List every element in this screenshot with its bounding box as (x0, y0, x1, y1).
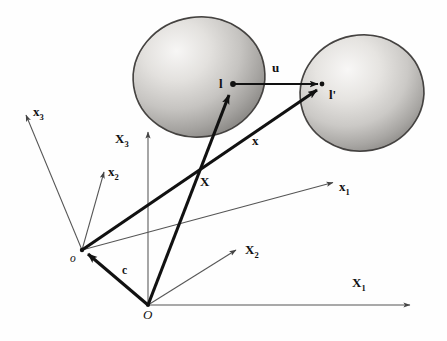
diagram-canvas (0, 0, 447, 341)
axis-X2-line (148, 250, 236, 305)
vector-label-X: X (200, 175, 209, 188)
axis-label-X3: X3 (115, 132, 129, 148)
vector-label-u: u (272, 61, 279, 74)
origin-label-o: o (70, 253, 76, 265)
axis-label-X1: X1 (352, 276, 366, 292)
axis-x1-sub: 1 (346, 187, 350, 197)
point-label-l-prime: l' (329, 88, 336, 101)
material-axes-group (148, 132, 410, 305)
origin-label-O: O (143, 308, 152, 321)
axis-X1-base: X (352, 275, 361, 290)
axis-label-X2: X2 (245, 243, 259, 259)
axis-X2-base: X (245, 242, 254, 257)
axis-label-x2: x2 (108, 165, 119, 181)
axis-x3-line (26, 115, 82, 250)
reference-body (125, 8, 272, 145)
vector-label-c: c (122, 265, 127, 277)
axis-x3-sub: 3 (40, 112, 44, 122)
axis-x1-line (82, 183, 333, 251)
axis-X1-sub: 1 (361, 283, 365, 293)
point-l-prime-marker (320, 82, 325, 87)
axis-label-x1: x1 (339, 180, 350, 196)
axis-X3-sub: 3 (124, 139, 128, 149)
axis-X3-base: X (115, 131, 124, 146)
point-label-l: l (219, 77, 223, 90)
axis-X2-sub: 2 (254, 250, 258, 260)
vector-label-x: x (252, 134, 259, 147)
origin-o-marker (80, 248, 84, 252)
deformation-diagram: l l' u x X c o O x1 x2 x3 X1 X2 X3 (0, 0, 447, 341)
point-l-marker (230, 81, 236, 87)
axis-x2-sub: 2 (115, 172, 119, 182)
axis-label-x3: x3 (33, 105, 44, 121)
vector-c (88, 254, 148, 305)
